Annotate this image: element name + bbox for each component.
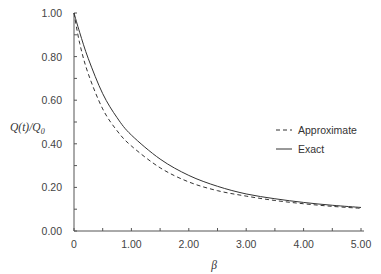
series-approximate <box>74 13 361 208</box>
y-tick-label: 0.60 <box>42 94 63 106</box>
x-axis-title: β <box>210 259 217 272</box>
y-tick-label: 1.00 <box>42 7 63 19</box>
x-tick-label: 0 <box>71 238 77 250</box>
legend-label-approximate: Approximate <box>298 124 357 136</box>
y-tick-label: 0.00 <box>42 225 63 237</box>
series-exact <box>74 13 361 207</box>
y-tick-label: 0.20 <box>42 181 63 193</box>
y-axis-title: Q(t)/Q0 <box>10 121 45 136</box>
x-tick-label: 3.00 <box>236 238 257 250</box>
chart: 0.000.200.400.600.801.0001.002.003.004.0… <box>0 0 381 274</box>
legend-label-exact: Exact <box>298 143 324 155</box>
legend: Approximate Exact <box>276 124 357 155</box>
x-tick-label: 5.00 <box>351 238 372 250</box>
y-tick-label: 0.80 <box>42 51 63 63</box>
x-tick-label: 4.00 <box>293 238 314 250</box>
x-tick-label: 1.00 <box>121 238 142 250</box>
series-lines <box>74 13 361 208</box>
x-tick-label: 2.00 <box>179 238 200 250</box>
y-tick-label: 0.40 <box>42 138 63 150</box>
